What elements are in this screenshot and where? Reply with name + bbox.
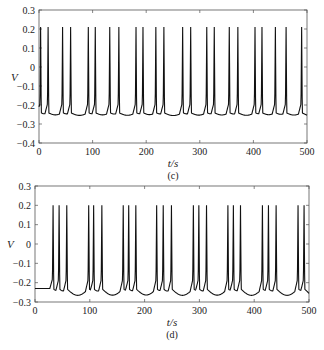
plot-frame <box>39 10 307 143</box>
y-tick-label: −0.2 <box>17 100 35 111</box>
x-tick-label: 200 <box>137 305 152 316</box>
x-tick-label: 500 <box>300 146 315 157</box>
x-axis-label: t/s <box>167 316 177 328</box>
figure: 0100200300400500−0.4−0.3−0.2−0.100.10.20… <box>0 0 324 350</box>
x-tick-label: 200 <box>139 146 154 157</box>
x-tick-label: 0 <box>33 305 38 316</box>
x-axis-label: t/s <box>168 157 178 169</box>
voltage-trace <box>35 205 309 295</box>
y-tick-label: 0.1 <box>23 43 36 54</box>
y-tick-label: −0.3 <box>17 119 35 130</box>
x-tick-label: 400 <box>246 146 261 157</box>
y-tick-label: −0.1 <box>17 81 35 92</box>
y-tick-label: −0.1 <box>13 258 31 269</box>
x-tick-label: 0 <box>37 146 42 157</box>
y-tick-label: 0.2 <box>23 24 36 35</box>
panel-caption: (c) <box>167 170 178 182</box>
x-tick-label: 100 <box>85 146 100 157</box>
y-tick-label: 0 <box>30 62 35 73</box>
chart-panel-c: 0100200300400500−0.4−0.3−0.2−0.100.10.20… <box>11 5 315 183</box>
chart-panel-d: 0100200300400500−0.3−0.2−0.100.10.20.3Vt… <box>7 181 317 342</box>
x-tick-label: 300 <box>192 305 207 316</box>
y-tick-label: 0 <box>26 239 31 250</box>
x-tick-label: 100 <box>82 305 97 316</box>
x-tick-label: 500 <box>302 305 317 316</box>
y-tick-label: 0.1 <box>19 219 32 230</box>
panel-caption: (d) <box>166 329 178 341</box>
y-tick-label: 0.3 <box>23 5 36 16</box>
x-tick-label: 300 <box>192 146 207 157</box>
x-tick-label: 400 <box>247 305 262 316</box>
y-tick-label: 0.2 <box>19 200 32 211</box>
y-tick-label: 0.3 <box>19 181 32 192</box>
y-axis-label: V <box>7 238 15 250</box>
voltage-trace <box>39 27 307 115</box>
y-tick-label: −0.2 <box>13 277 31 288</box>
y-tick-label: −0.3 <box>13 297 31 308</box>
y-tick-label: −0.4 <box>17 138 35 149</box>
